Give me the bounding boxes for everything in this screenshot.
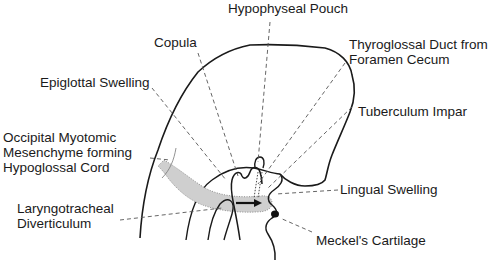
label-copula: Copula — [154, 36, 197, 50]
meckels-cartilage-dot — [271, 211, 279, 218]
label-thyroglossal-duct-line2: Foramen Cecum — [349, 53, 450, 67]
label-meckels-cartilage: Meckel's Cartilage — [316, 234, 426, 248]
label-occipital-line2: Mesenchyme forming — [3, 146, 132, 160]
label-tuberculum-impar: Tuberculum Impar — [358, 105, 467, 119]
hypophyseal-pouch — [255, 157, 264, 168]
label-lingual-swelling: Lingual Swelling — [340, 183, 438, 197]
label-laryngotracheal-line2: Diverticulum — [17, 217, 91, 231]
diagram-canvas: Hypophyseal Pouch Copula Thyroglossal Du… — [0, 0, 501, 265]
label-laryngotracheal-line1: Laryngotracheal — [17, 202, 114, 216]
label-epiglottal-swelling: Epiglottal Swelling — [40, 76, 150, 90]
label-occipital-line1: Occipital Myotomic — [3, 131, 116, 145]
label-thyroglossal-duct-line1: Thyroglossal Duct from — [349, 38, 488, 52]
label-occipital-line3: Hypoglossal Cord — [3, 161, 110, 175]
label-hypophyseal-pouch: Hypophyseal Pouch — [228, 2, 348, 16]
